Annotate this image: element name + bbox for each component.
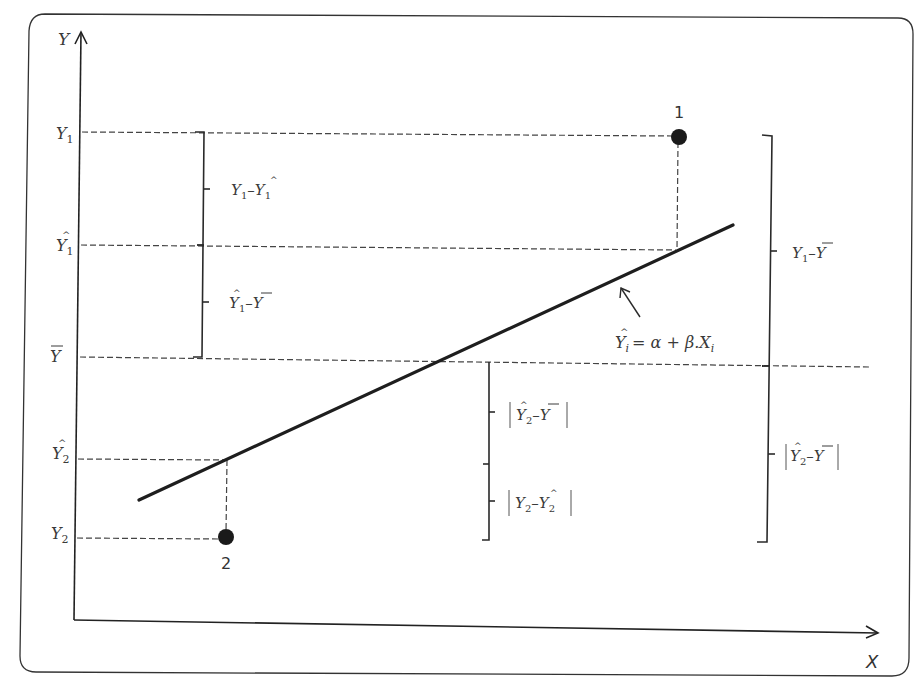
- label-y1-hat: Y1 ^: [56, 229, 74, 258]
- label-y2-hat: Y2 ^: [52, 437, 70, 466]
- svg-text:Y1–Y1: Y1–Y1: [231, 181, 271, 201]
- label-y-bar: Y: [50, 346, 63, 366]
- point-2-label: 2: [221, 554, 231, 573]
- svg-text:Y1–Y: Y1–Y: [792, 244, 828, 264]
- svg-text:^: ^: [58, 437, 66, 448]
- regression-equation: Yi= α + β.Xi ^: [615, 326, 714, 355]
- guide-y2-hat: [78, 459, 226, 460]
- svg-text:Y1: Y1: [56, 124, 74, 146]
- guide-y2: [77, 538, 220, 539]
- x-axis: [74, 620, 878, 638]
- regression-line: [139, 225, 733, 500]
- x-axis-label: X: [865, 651, 879, 672]
- svg-text:^: ^: [550, 488, 558, 498]
- label-y1: Y1: [56, 124, 74, 146]
- diagram-frame: [20, 14, 913, 676]
- guide-y-bar: [80, 357, 870, 367]
- label-y1-minus-y1hat: Y1–Y1 ^: [231, 175, 278, 201]
- guide-point1-vertical: [677, 142, 678, 250]
- svg-text:^: ^: [520, 400, 528, 410]
- svg-text:^: ^: [620, 326, 628, 337]
- data-point-1: [671, 129, 687, 145]
- svg-text:Y2: Y2: [51, 524, 69, 546]
- svg-text:^: ^: [270, 175, 278, 185]
- y-axis: [74, 32, 87, 620]
- guide-point2-vertical: [226, 460, 227, 533]
- label-y1-minus-ybar: Y1–Y: [792, 243, 833, 264]
- label-y1hat-minus-ybar: Y1–Y ^: [229, 288, 272, 314]
- data-point-2: [218, 529, 234, 545]
- label-abs-y2-minus-y2hat: Y2–Y2 ^: [509, 488, 571, 516]
- svg-text:Y: Y: [50, 347, 62, 366]
- regression-diagram: Y X Y1 Y1 ^ Y Y2 ^ Y2 1 2 Yi= α + β.Xi ^: [0, 0, 919, 695]
- label-abs-y2hat-minus-ybar-middle: Y2–Y ^: [510, 400, 567, 428]
- label-abs-y2hat-minus-ybar-right: Y2–Y ^: [786, 441, 838, 470]
- guide-y1: [82, 132, 672, 136]
- svg-text:^: ^: [794, 441, 802, 451]
- svg-text:^: ^: [62, 229, 70, 240]
- equation-pointer-arrow: [620, 288, 640, 317]
- right-bracket: [757, 135, 777, 542]
- y-axis-label: Y: [58, 29, 71, 49]
- middle-bracket: [482, 362, 495, 540]
- label-y2: Y2: [51, 524, 69, 546]
- svg-text:^: ^: [233, 288, 241, 298]
- guide-y1-hat: [81, 245, 676, 250]
- left-bracket: [193, 132, 210, 357]
- point-1-label: 1: [674, 103, 684, 122]
- svg-text:Yi= α + β.Xi: Yi= α + β.Xi: [615, 333, 714, 355]
